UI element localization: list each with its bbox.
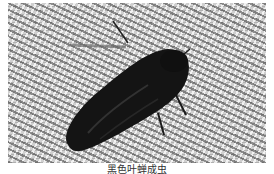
figure-caption: 黑色叶蝉成虫 — [0, 164, 274, 174]
insect-photo — [8, 3, 266, 163]
leafhopper-illustration — [8, 3, 266, 163]
